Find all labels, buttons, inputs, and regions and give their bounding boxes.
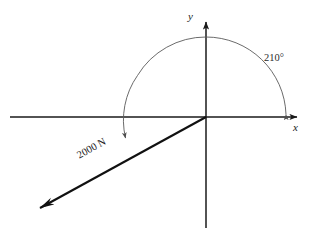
force-vector: [40, 117, 206, 208]
x-axis-label: x: [293, 122, 298, 133]
angle-measure-label: 210°: [264, 53, 284, 64]
y-axis-label: y: [188, 11, 193, 22]
diagram-canvas: [0, 0, 323, 236]
vector-diagram-figure: x y 210° 2000 N: [0, 0, 323, 236]
angle-arc: [123, 37, 286, 138]
